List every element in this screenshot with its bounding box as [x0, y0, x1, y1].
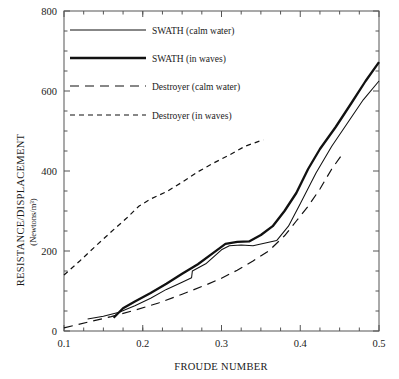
- resistance-displacement-line-chart: 0.10.20.30.40.5 0200400600800 SWATH (cal…: [0, 0, 399, 379]
- x-tick-label: 0.1: [57, 338, 70, 349]
- y-tick-label: 400: [41, 166, 57, 177]
- series-dashed-short: [64, 140, 263, 275]
- x-axis-tick-labels: 0.10.20.30.40.5: [57, 338, 385, 349]
- chart-figure: 0.10.20.30.40.5 0200400600800 SWATH (cal…: [0, 0, 399, 379]
- x-tick-label: 0.3: [215, 338, 228, 349]
- legend-label-1: SWATH (in waves): [152, 54, 226, 65]
- y-axis-title: RESISTANCE/DISPLACEMENT: [15, 133, 26, 286]
- y-tick-label: 800: [41, 6, 57, 17]
- y-tick-label: 600: [41, 86, 57, 97]
- x-tick-label: 0.2: [136, 338, 149, 349]
- y-axis-tick-labels: 0200400600800: [41, 6, 57, 337]
- x-tick-label: 0.4: [294, 338, 308, 349]
- y-tick-label: 200: [41, 246, 57, 257]
- y-axis-units: (Newtons/m³): [28, 198, 38, 246]
- y-tick-label: 0: [52, 326, 57, 337]
- series-solid-thin: [88, 81, 379, 319]
- data-series-group: [64, 62, 379, 328]
- x-axis-title: FROUDE NUMBER: [174, 361, 267, 372]
- legend-label-3: Destroyer (in waves): [152, 111, 232, 122]
- legend-label-2: Destroyer (calm water): [152, 82, 240, 93]
- chart-legend: SWATH (calm water)SWATH (in waves)Destro…: [70, 26, 240, 122]
- series-dashed-long: [64, 156, 341, 328]
- x-tick-label: 0.5: [372, 338, 385, 349]
- series-solid-bold: [114, 62, 379, 318]
- legend-label-0: SWATH (calm water): [152, 26, 234, 37]
